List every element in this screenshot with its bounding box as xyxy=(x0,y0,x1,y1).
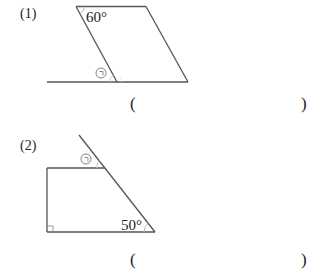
figure-2-slanted-line xyxy=(79,135,155,232)
answer-2-open-paren: ( xyxy=(130,250,136,270)
figure-2-angle-50-label: 50° xyxy=(121,217,142,233)
answer-2-input[interactable] xyxy=(140,252,298,272)
figure-2-right-angle-icon xyxy=(47,226,53,232)
figure-2-trapezoid: ㄱ 50° xyxy=(0,0,330,279)
answer-2-close-paren: ) xyxy=(301,250,307,270)
figure-2-angle-arc-50 xyxy=(144,224,148,233)
figure-2-marker-icon: ㄱ xyxy=(83,156,89,164)
